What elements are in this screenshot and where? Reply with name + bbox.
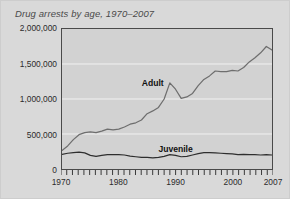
- y-axis-tick-label: 0: [52, 165, 57, 175]
- y-axis-tick-label: 1,000,000: [20, 94, 57, 104]
- series-line-adult: [62, 47, 272, 151]
- x-axis-labels: 19701980199020002007: [61, 177, 273, 191]
- y-axis-tick-label: 1,500,000: [20, 59, 57, 69]
- series-label-juvenile: Juvenile: [158, 144, 192, 154]
- x-axis-tick-label: 2000: [224, 177, 243, 187]
- x-axis-ticks: [61, 170, 273, 176]
- y-axis-tick-label: 500,000: [27, 130, 57, 140]
- x-axis-tick-label: 1990: [166, 177, 185, 187]
- series-label-adult: Adult: [142, 78, 164, 88]
- chart-figure: Drug arrests by age, 1970–2007 2,000,000…: [0, 0, 290, 199]
- y-axis-tick-label: 2,000,000: [20, 23, 57, 33]
- y-axis-labels: 2,000,0001,500,0001,000,000500,0000: [1, 1, 57, 199]
- x-axis-tick-label: 1970: [52, 177, 71, 187]
- x-axis-tick-label: 2007: [264, 177, 283, 187]
- x-axis-tick-label: 1980: [109, 177, 128, 187]
